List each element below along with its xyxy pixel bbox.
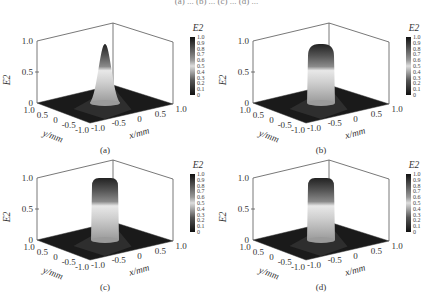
svg-text:1.0: 1.0	[22, 36, 34, 46]
svg-text:1.0: 1.0	[175, 104, 187, 114]
figure-top-text: (a) ... (b) ... (c) ... (d) ...	[0, 0, 433, 6]
svg-text:(d): (d)	[316, 282, 327, 292]
surface-plot-b: 00.51.0E21.00.50-0.5-1.0y/mm-1.0-0.500.5…	[216, 15, 432, 155]
svg-text:0.5: 0.5	[238, 204, 250, 214]
svg-text:0: 0	[53, 115, 58, 125]
svg-text:0.5: 0.5	[253, 110, 265, 120]
svg-text:0: 0	[413, 92, 416, 98]
svg-text:1.0: 1.0	[22, 173, 34, 183]
svg-text:E2: E2	[408, 160, 420, 170]
surface-plot-a: 00.51.0E21.00.50-0.5-1.0y/mm-1.0-0.500.5…	[0, 15, 216, 155]
svg-text:0: 0	[269, 115, 274, 125]
svg-text:0: 0	[269, 252, 274, 262]
svg-text:1.0: 1.0	[391, 104, 403, 114]
svg-text:-1.0: -1.0	[307, 260, 322, 270]
svg-text:-1.0: -1.0	[291, 125, 306, 135]
svg-text:0.5: 0.5	[155, 246, 167, 256]
svg-text:0: 0	[137, 114, 142, 124]
plot-canvas: 00.51.0E21.00.50-0.5-1.0y/mm-1.0-0.500.5…	[0, 15, 216, 155]
svg-text:E2: E2	[2, 74, 12, 86]
svg-text:0: 0	[413, 229, 416, 235]
svg-text:1.0: 1.0	[239, 242, 251, 252]
svg-text:-0.5: -0.5	[328, 118, 343, 128]
svg-text:0: 0	[137, 251, 142, 261]
svg-text:x/mm: x/mm	[343, 126, 367, 141]
svg-text:y/mm: y/mm	[41, 265, 65, 282]
svg-text:0: 0	[197, 92, 200, 98]
svg-text:E2: E2	[218, 211, 228, 223]
svg-text:1.0: 1.0	[238, 36, 250, 46]
svg-text:y/mm: y/mm	[257, 265, 281, 282]
svg-text:-1.0: -1.0	[91, 260, 106, 270]
svg-text:0.5: 0.5	[37, 110, 49, 120]
svg-text:-0.5: -0.5	[112, 118, 127, 128]
svg-text:E2: E2	[218, 74, 228, 86]
svg-text:0.5: 0.5	[371, 109, 383, 119]
plot-canvas: 00.51.0E21.00.50-0.5-1.0y/mm-1.0-0.500.5…	[0, 152, 216, 292]
svg-text:0: 0	[53, 252, 58, 262]
svg-text:E2: E2	[192, 23, 204, 33]
svg-text:E2: E2	[408, 23, 420, 33]
svg-text:0.5: 0.5	[22, 204, 34, 214]
surface-plot-d: 00.51.0E21.00.50-0.5-1.0y/mm-1.0-0.500.5…	[216, 152, 432, 292]
svg-text:0.5: 0.5	[155, 109, 167, 119]
svg-text:y/mm: y/mm	[41, 128, 65, 145]
svg-text:-1.0: -1.0	[75, 125, 90, 135]
svg-text:y/mm: y/mm	[257, 128, 281, 145]
svg-text:0: 0	[353, 114, 358, 124]
svg-text:-1.0: -1.0	[91, 123, 106, 133]
svg-text:-0.5: -0.5	[112, 255, 127, 265]
svg-text:1.0: 1.0	[238, 173, 250, 183]
svg-text:-1.0: -1.0	[75, 262, 90, 272]
svg-text:1.0: 1.0	[175, 241, 187, 251]
svg-text:0: 0	[353, 251, 358, 261]
svg-text:E2: E2	[192, 160, 204, 170]
svg-text:E2: E2	[2, 211, 12, 223]
svg-text:1.0: 1.0	[239, 105, 251, 115]
svg-text:x/mm: x/mm	[127, 126, 151, 141]
svg-text:0.5: 0.5	[238, 67, 250, 77]
svg-text:0: 0	[197, 229, 200, 235]
svg-text:x/mm: x/mm	[127, 263, 151, 278]
plot-canvas: 00.51.0E21.00.50-0.5-1.0y/mm-1.0-0.500.5…	[216, 152, 432, 292]
svg-text:x/mm: x/mm	[343, 263, 367, 278]
svg-text:-1.0: -1.0	[307, 123, 322, 133]
svg-text:-0.5: -0.5	[328, 255, 343, 265]
svg-text:-1.0: -1.0	[291, 262, 306, 272]
plot-canvas: 00.51.0E21.00.50-0.5-1.0y/mm-1.0-0.500.5…	[216, 15, 432, 155]
svg-text:1.0: 1.0	[23, 105, 35, 115]
svg-text:0.5: 0.5	[253, 247, 265, 257]
svg-text:1.0: 1.0	[391, 241, 403, 251]
svg-text:0.5: 0.5	[37, 247, 49, 257]
surface-plot-c: 00.51.0E21.00.50-0.5-1.0y/mm-1.0-0.500.5…	[0, 152, 216, 292]
svg-text:0.5: 0.5	[22, 67, 34, 77]
svg-text:(c): (c)	[100, 282, 110, 292]
svg-text:0.5: 0.5	[371, 246, 383, 256]
svg-text:1.0: 1.0	[23, 242, 35, 252]
